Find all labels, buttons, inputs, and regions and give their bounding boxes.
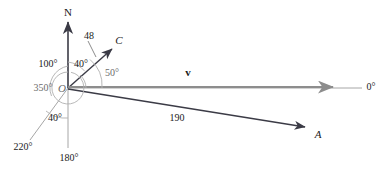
label-angle-40deg-upper: 40° <box>74 59 88 69</box>
label-angle-100deg: 100° <box>39 59 58 69</box>
label-angle-220deg: 220° <box>14 142 33 152</box>
label-angle-180deg: 180° <box>60 153 79 163</box>
vector-a-arrow <box>68 89 305 127</box>
label-magnitude-c: 48 <box>84 31 94 41</box>
label-angle-350deg: 350° <box>34 83 53 93</box>
leader-line-magnitude-48 <box>88 41 96 57</box>
label-vector-v: v <box>185 67 191 78</box>
label-magnitude-a: 190 <box>170 113 185 123</box>
label-angle-50deg: 50° <box>105 68 119 78</box>
vector-bearing-diagram: N O 48 C 100° 40° 50° 350° 40° 220° 180°… <box>0 0 391 170</box>
label-vector-a: A <box>315 129 322 140</box>
label-origin: O <box>58 83 66 94</box>
label-angle-0deg: 0° <box>367 82 376 92</box>
label-north: N <box>64 7 72 18</box>
label-vector-c: C <box>115 35 122 46</box>
label-angle-40deg-lower: 40° <box>48 113 62 123</box>
